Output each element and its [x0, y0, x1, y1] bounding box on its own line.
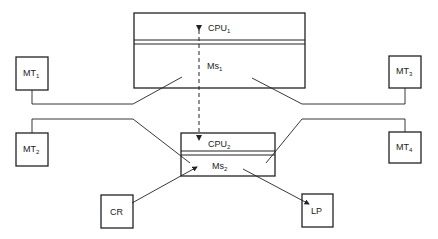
main-computer: CPU1 Ms1	[134, 13, 305, 88]
ms1-label: Ms1	[207, 61, 223, 72]
svg-text:MT4: MT4	[396, 142, 413, 153]
mt1-to-ms1-line	[32, 77, 182, 104]
satellite-computer: CPU2 Ms2	[181, 133, 275, 176]
mt2-to-ms2-line	[32, 119, 190, 163]
terminal-mt4: MT4	[389, 132, 421, 163]
svg-text:MT2: MT2	[23, 144, 40, 155]
terminal-mt2: MT2	[16, 133, 48, 166]
terminal-mt3: MT3	[389, 56, 421, 88]
mt4-to-ms2-line	[266, 119, 405, 163]
card-reader-cr: CR	[101, 195, 133, 228]
line-printer-lp: LP	[302, 194, 333, 227]
mt3-to-ms1-line	[252, 78, 405, 104]
cr-to-ms2-arrow	[132, 167, 197, 203]
system-diagram: CPU1 Ms1 CPU2 Ms2 MT1 MT2 MT3 MT4 CR LP	[0, 0, 438, 239]
svg-text:MT3: MT3	[396, 66, 413, 77]
ms2-to-lp-arrow	[243, 169, 309, 204]
svg-text:MT1: MT1	[23, 68, 40, 79]
svg-text:CR: CR	[110, 207, 123, 217]
terminal-mt1: MT1	[16, 57, 48, 90]
svg-text:LP: LP	[311, 206, 322, 216]
cpu2-label: CPU2	[208, 139, 231, 150]
ms2-label: Ms2	[212, 161, 228, 172]
cpu1-label: CPU1	[208, 23, 231, 34]
